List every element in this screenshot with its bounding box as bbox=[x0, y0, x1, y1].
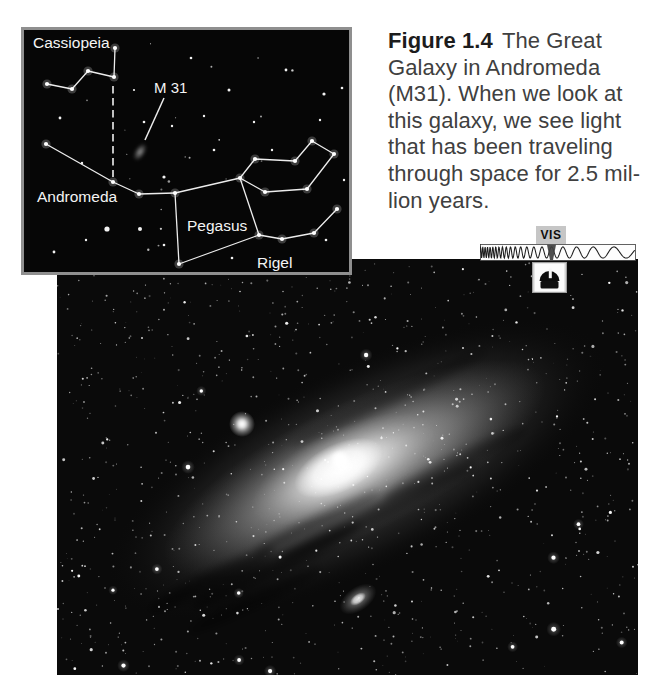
textbook-figure-page: CassiopeiaM 31AndromedaPegasusRigel Figu… bbox=[0, 0, 672, 698]
chart-label-pegasus: Pegasus bbox=[187, 217, 248, 234]
caption-text: Galaxy in Andromeda (M31). When we look … bbox=[388, 55, 670, 215]
caption-first-line: The Great bbox=[502, 28, 602, 53]
vis-band-label: VIS bbox=[536, 226, 566, 244]
figure-label: Figure 1.4 bbox=[388, 28, 493, 53]
chart-label-andromeda: Andromeda bbox=[37, 188, 118, 205]
finder-chart-canvas: CassiopeiaM 31AndromedaPegasusRigel bbox=[24, 30, 349, 272]
chart-label-m31: M 31 bbox=[154, 79, 187, 96]
galaxy-core bbox=[332, 452, 348, 468]
wavelength-wave-icon bbox=[480, 244, 636, 261]
chart-label-cassiopeia: Cassiopeia bbox=[33, 34, 110, 51]
telescope-dome-glyph bbox=[533, 263, 566, 292]
spectrum-strip bbox=[480, 244, 636, 261]
galaxy-photo-canvas bbox=[57, 259, 638, 675]
observatory-dome-icon bbox=[532, 262, 567, 293]
constellation-finder-chart: CassiopeiaM 31AndromedaPegasusRigel bbox=[21, 27, 352, 275]
figure-caption: Figure 1.4The Great Galaxy in Andromeda … bbox=[388, 28, 670, 214]
chart-label-rigel: Rigel bbox=[257, 254, 292, 271]
andromeda-galaxy-photo bbox=[57, 259, 638, 675]
